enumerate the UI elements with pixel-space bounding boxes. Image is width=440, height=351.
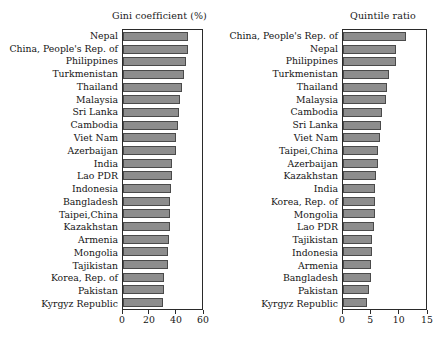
- bar-row: [343, 57, 426, 66]
- bar: [123, 222, 170, 231]
- bar-row: [123, 273, 202, 282]
- x-tick-label: 0: [119, 314, 125, 325]
- bar-row: [343, 108, 426, 117]
- category-label: Kyrgyz Republic: [222, 299, 338, 308]
- bar: [123, 260, 168, 269]
- x-tick-label: 20: [143, 314, 155, 325]
- x-tick-label: 10: [393, 314, 405, 325]
- bar-row: [123, 285, 202, 294]
- bar: [343, 260, 371, 269]
- bar: [123, 273, 164, 282]
- bar-row: [343, 285, 426, 294]
- category-label: Azerbaijan: [222, 159, 338, 168]
- bar: [343, 209, 375, 218]
- bar: [343, 222, 374, 231]
- category-label: India: [222, 184, 338, 193]
- bar: [123, 83, 182, 92]
- category-label: Turkmenistan: [222, 69, 338, 78]
- category-label: Taipei,China: [0, 210, 118, 219]
- bar-row: [123, 121, 202, 130]
- bar: [343, 247, 372, 256]
- category-label: Malaysia: [0, 95, 118, 104]
- bar: [343, 146, 378, 155]
- bar-row: [123, 32, 202, 41]
- category-label: India: [0, 159, 118, 168]
- bar: [123, 95, 180, 104]
- bars-gini: [123, 30, 202, 309]
- bar-row: [343, 273, 426, 282]
- category-label: Lao PDR: [222, 222, 338, 231]
- category-label: Tajikistan: [222, 235, 338, 244]
- category-label: Viet Nam: [222, 133, 338, 142]
- bar-row: [123, 57, 202, 66]
- category-label: Nepal: [0, 31, 118, 40]
- panel-title-quintile: Quintile ratio: [350, 10, 416, 21]
- category-label: Lao PDR: [0, 171, 118, 180]
- bar: [123, 70, 184, 79]
- bar-row: [343, 133, 426, 142]
- bar-row: [343, 171, 426, 180]
- bar-row: [123, 222, 202, 231]
- category-label: China, People's Rep. of: [0, 44, 118, 53]
- bar: [343, 285, 369, 294]
- category-label: Korea, Rep. of: [0, 273, 118, 282]
- x-tick-label: 0: [339, 314, 345, 325]
- x-tick-label: 5: [367, 314, 373, 325]
- bar-row: [343, 95, 426, 104]
- bar: [123, 209, 170, 218]
- bar-row: [123, 184, 202, 193]
- bar: [123, 57, 186, 66]
- bar-row: [343, 32, 426, 41]
- category-labels-quintile: China, People's Rep. ofNepalPhilippinesT…: [222, 29, 338, 310]
- bar: [343, 32, 406, 41]
- category-label: Bangladesh: [222, 273, 338, 282]
- bar: [343, 273, 371, 282]
- bar: [123, 184, 171, 193]
- bar-row: [123, 247, 202, 256]
- category-label: Kazakhstan: [0, 222, 118, 231]
- bar-row: [123, 83, 202, 92]
- category-label: Mongolia: [0, 248, 118, 257]
- category-label: Korea, Rep. of: [222, 197, 338, 206]
- bar: [343, 235, 372, 244]
- bar-row: [343, 298, 426, 307]
- category-label: Taipei,China: [222, 146, 338, 155]
- bar-row: [123, 95, 202, 104]
- panel-title-gini: Gini coefficient (%): [112, 10, 207, 21]
- category-label: Indonesia: [222, 248, 338, 257]
- bar-row: [123, 146, 202, 155]
- bars-quintile: [343, 30, 426, 309]
- x-axis-quintile: 051015: [342, 310, 427, 326]
- category-label: Turkmenistan: [0, 69, 118, 78]
- bar-row: [123, 133, 202, 142]
- bar: [123, 108, 179, 117]
- bar-row: [123, 70, 202, 79]
- bar: [123, 285, 164, 294]
- bar-row: [343, 222, 426, 231]
- category-label: Sri Lanka: [0, 107, 118, 116]
- bar-row: [343, 184, 426, 193]
- category-label: Cambodia: [0, 120, 118, 129]
- bar: [123, 197, 170, 206]
- x-tick-label: 40: [170, 314, 182, 325]
- category-labels-gini: NepalChina, People's Rep. ofPhilippinesT…: [0, 29, 118, 310]
- bar-row: [123, 108, 202, 117]
- bar-row: [343, 235, 426, 244]
- category-label: Armenia: [0, 235, 118, 244]
- category-label: China, People's Rep. of: [222, 31, 338, 40]
- bar: [123, 159, 172, 168]
- category-label: Cambodia: [222, 107, 338, 116]
- bar: [123, 298, 163, 307]
- bar-row: [343, 209, 426, 218]
- bar: [343, 298, 367, 307]
- bar: [123, 45, 188, 54]
- category-label: Tajikistan: [0, 261, 118, 270]
- bar-row: [123, 159, 202, 168]
- bar: [343, 45, 396, 54]
- bar-row: [343, 159, 426, 168]
- plot-area-quintile: [342, 29, 427, 310]
- bar-row: [343, 70, 426, 79]
- bar: [343, 171, 376, 180]
- plot-area-gini: [122, 29, 203, 310]
- category-label: Viet Nam: [0, 133, 118, 142]
